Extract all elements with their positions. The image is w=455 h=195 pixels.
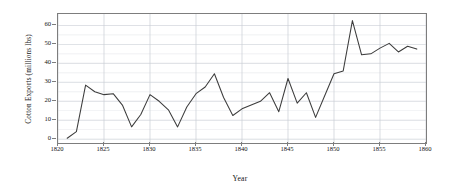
x-axis-tick-mark bbox=[195, 142, 196, 146]
x-axis-tick-labels: 182018251830183518401845185018551860 bbox=[0, 146, 455, 158]
chart-canvas bbox=[58, 14, 426, 143]
x-axis-tick-label: 1820 bbox=[42, 146, 72, 153]
x-axis-tick-mark bbox=[149, 142, 150, 146]
plot-area bbox=[57, 13, 427, 144]
x-axis-tick-label: 1840 bbox=[226, 146, 256, 153]
x-axis-title: Year bbox=[55, 174, 425, 183]
y-axis-tick-label: 60 bbox=[35, 21, 51, 28]
x-axis-tick-label: 1850 bbox=[318, 146, 348, 153]
y-axis-tick-mark bbox=[52, 119, 56, 120]
x-axis-tick-mark bbox=[425, 142, 426, 146]
y-axis-tick-mark bbox=[52, 100, 56, 101]
x-axis-tick-label: 1835 bbox=[180, 146, 210, 153]
x-axis-tick-mark bbox=[287, 142, 288, 146]
y-axis-tick-label: 10 bbox=[35, 116, 51, 123]
y-axis-tick-mark bbox=[52, 24, 56, 25]
x-axis-tick-mark bbox=[241, 142, 242, 146]
x-axis-tick-label: 1860 bbox=[410, 146, 440, 153]
x-axis-tick-label: 1845 bbox=[272, 146, 302, 153]
y-axis-tick-mark bbox=[52, 138, 56, 139]
x-axis-tick-mark bbox=[379, 142, 380, 146]
x-axis-tick-label: 1825 bbox=[88, 146, 118, 153]
y-axis-tick-label: 50 bbox=[35, 40, 51, 47]
y-axis-tick-mark bbox=[52, 43, 56, 44]
x-axis-tick-label: 1855 bbox=[364, 146, 394, 153]
x-axis-tick-mark bbox=[57, 142, 58, 146]
y-axis-tick-label: 0 bbox=[35, 135, 51, 142]
x-axis-tick-mark bbox=[103, 142, 104, 146]
y-axis-tick-label: 20 bbox=[35, 97, 51, 104]
y-axis-tick-label: 30 bbox=[35, 78, 51, 85]
y-axis-tick-mark bbox=[52, 62, 56, 63]
y-axis-tick-labels: 0102030405060 bbox=[33, 0, 51, 195]
grid-lines bbox=[58, 14, 426, 143]
x-axis-tick-mark bbox=[333, 142, 334, 146]
x-axis-tick-label: 1830 bbox=[134, 146, 164, 153]
y-axis-tick-label: 40 bbox=[35, 59, 51, 66]
cotton-exports-line-chart: Cotton Exports (millions lbs) 0102030405… bbox=[0, 0, 455, 195]
y-axis-tick-mark bbox=[52, 81, 56, 82]
